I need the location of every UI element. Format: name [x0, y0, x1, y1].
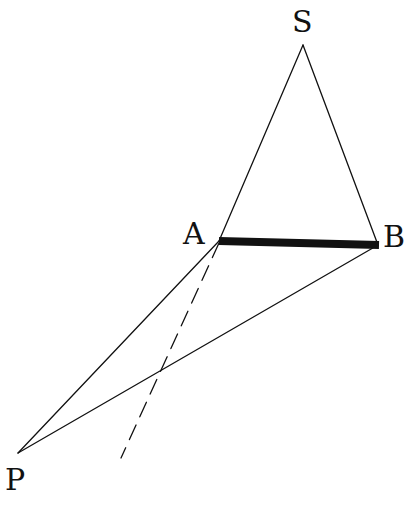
segment-ab-thick	[219, 241, 379, 245]
segment-sb	[303, 45, 378, 245]
geometry-diagram: S A B P	[0, 0, 415, 505]
label-b: B	[383, 219, 405, 254]
label-p: P	[5, 462, 25, 497]
segment-sa	[219, 45, 303, 241]
label-s: S	[292, 4, 313, 39]
segment-bp	[18, 245, 378, 453]
dashed-line	[121, 243, 219, 458]
label-a: A	[182, 216, 205, 251]
segment-ap	[18, 241, 219, 453]
